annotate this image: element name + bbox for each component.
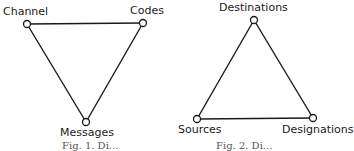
node-destinations (251, 17, 258, 24)
edge-destinations-designations (254, 20, 313, 118)
caption-figure-1: Fig. 1. Di... (62, 141, 118, 151)
node-codes (140, 20, 147, 27)
label-codes: Codes (130, 5, 164, 17)
node-sources (194, 116, 201, 123)
label-messages: Messages (60, 127, 114, 139)
label-designations: Designations (282, 124, 354, 136)
label-sources: Sources (178, 124, 222, 136)
node-designations (310, 115, 317, 122)
node-messages (83, 119, 90, 126)
edge-destinations-sources (197, 20, 254, 119)
edge-channel-codes (27, 23, 143, 24)
edge-sources-designations (197, 118, 313, 119)
label-channel: Channel (3, 6, 48, 18)
label-destinations: Destinations (219, 2, 288, 14)
edge-codes-messages (86, 23, 143, 122)
caption-figure-2: Fig. 2. Di... (216, 141, 272, 151)
node-channel (24, 21, 31, 28)
edge-channel-messages (27, 24, 86, 122)
